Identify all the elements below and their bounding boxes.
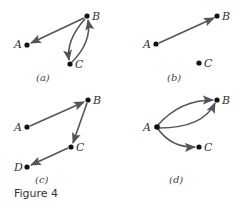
panel-label-b: (b) (167, 72, 181, 83)
node-b-C (196, 60, 201, 65)
panel-a: B A C (a) (13, 10, 100, 83)
node-c-D (24, 164, 29, 169)
edge-d-A-B-upper (158, 100, 213, 125)
panel-d: B A C (d) (142, 94, 230, 185)
node-label-b-C: C (204, 57, 213, 70)
edge-a-B-C (69, 19, 85, 60)
node-label-a-C: C (75, 58, 84, 71)
edge-c-C-D (31, 148, 68, 165)
panel-c: B A C D (c) (13, 94, 101, 185)
node-label-b-B: B (221, 10, 230, 23)
node-label-c-D: D (13, 161, 23, 174)
node-label-a-B: B (91, 10, 100, 23)
node-d-A (154, 124, 160, 130)
node-label-d-A: A (142, 121, 151, 134)
edge-c-B-C (73, 103, 87, 143)
node-a-B (84, 13, 89, 18)
edge-d-A-C (158, 129, 195, 147)
node-b-B (214, 13, 219, 18)
panel-label-a: (a) (36, 72, 50, 83)
node-d-C (196, 144, 201, 149)
panel-label-c: (c) (35, 174, 49, 185)
figure-caption: Figure 4 (14, 187, 58, 200)
edge-c-A-B (30, 102, 84, 126)
edge-a-C-B (72, 20, 89, 62)
node-c-C (68, 144, 73, 149)
panel-b: B A C (b) (142, 10, 230, 83)
node-a-C (67, 61, 72, 66)
node-label-c-A: A (13, 121, 22, 134)
node-b-A (153, 41, 158, 46)
node-label-d-B: B (221, 94, 230, 107)
node-label-d-C: C (204, 141, 213, 154)
node-label-c-C: C (76, 141, 85, 154)
node-label-a-A: A (13, 38, 22, 51)
edge-b-A-B (159, 18, 214, 43)
node-c-B (85, 97, 90, 102)
node-label-b-A: A (142, 38, 151, 51)
figure-canvas: B A C (a) B A C (b) B A C D (c) B (0, 0, 247, 204)
panel-label-d: (d) (169, 174, 183, 185)
node-d-B (214, 97, 219, 102)
node-c-A (24, 124, 29, 129)
node-label-c-B: B (92, 94, 101, 107)
node-a-A (24, 42, 29, 47)
